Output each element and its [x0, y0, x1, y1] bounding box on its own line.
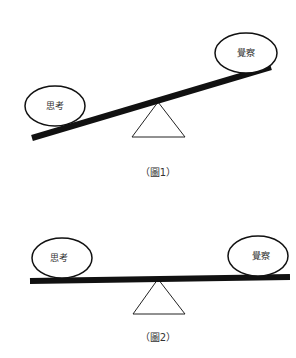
fulcrum-triangle	[133, 279, 185, 314]
figure-1: 思考 覺察 （圖1）	[25, 33, 277, 178]
label-right: 覺察	[252, 250, 270, 261]
figure-2: 思考 覺察 （圖2）	[30, 236, 290, 343]
label-left: 思考	[46, 101, 64, 111]
caption: （圖2）	[140, 332, 176, 343]
label-left: 思考	[50, 253, 68, 263]
caption: （圖1）	[140, 167, 176, 178]
seesaw-diagrams: 思考 覺察 （圖1） 思考 覺察 （圖2）	[0, 0, 296, 358]
label-right: 覺察	[237, 47, 255, 58]
